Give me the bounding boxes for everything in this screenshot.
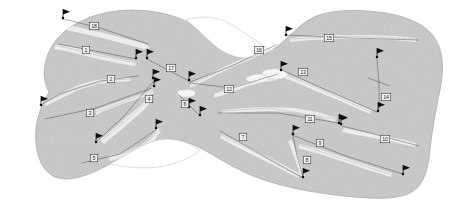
flag-base-dot (377, 110, 380, 113)
flag-base-dot (302, 176, 305, 179)
hole-number-text: 17 (168, 65, 174, 71)
hole-number-text: 15 (326, 35, 332, 41)
golf-course-map: 123456789101112131415161718 (0, 0, 453, 205)
hole-number-label[interactable]: 14 (381, 93, 391, 101)
hole-number-label[interactable]: 3 (86, 109, 94, 117)
hole-number-label[interactable]: 7 (239, 133, 247, 141)
hole-number-text: 18 (91, 23, 97, 29)
hole-number-text: 8 (306, 157, 309, 163)
hole-number-label[interactable]: 12 (224, 85, 234, 93)
flag-base-dot (340, 123, 343, 126)
flag-base-dot (280, 69, 283, 72)
flag-base-dot (62, 17, 65, 20)
hole-number-label[interactable]: 10 (380, 135, 390, 143)
flag-base-dot (153, 85, 156, 88)
hole-number-text: 13 (300, 69, 306, 75)
hole-number-text: 1 (85, 47, 88, 53)
hole-number-text: 2 (110, 76, 113, 82)
flag-base-dot (188, 79, 191, 82)
flag-base-dot (155, 127, 158, 130)
hole-number-label[interactable]: 5 (90, 154, 98, 162)
hole-number-text: 7 (242, 134, 245, 140)
hole-number-text: 9 (319, 140, 322, 146)
flag-base-dot (40, 104, 43, 107)
flag-base-dot (95, 141, 98, 144)
hole-number-label[interactable]: 9 (316, 139, 324, 147)
flag-base-dot (402, 173, 405, 176)
hole-number-label[interactable]: 4 (145, 95, 153, 103)
hole-number-label[interactable]: 16 (254, 46, 264, 54)
flag-base-dot (146, 57, 149, 60)
hole-number-text: 10 (382, 136, 388, 142)
flag-pennant (286, 26, 293, 32)
hole-number-text: 6 (184, 101, 187, 107)
hole-number-label[interactable]: 18 (89, 22, 99, 30)
hole-number-label[interactable]: 2 (107, 75, 115, 83)
hole-number-text: 12 (226, 86, 232, 92)
hole-number-label[interactable]: 11 (305, 115, 315, 123)
hole-number-label[interactable]: 1 (82, 46, 90, 54)
hole-number-text: 5 (93, 155, 96, 161)
flag-base-dot (376, 56, 379, 59)
hole-number-text: 16 (256, 47, 262, 53)
flag-icon (62, 9, 70, 19)
hole-number-label[interactable]: 8 (303, 156, 311, 164)
hole-number-label[interactable]: 6 (181, 100, 189, 108)
hole-number-label[interactable]: 15 (324, 34, 334, 42)
hole-number-label[interactable]: 13 (298, 68, 308, 76)
flag-base-dot (292, 133, 295, 136)
hole-number-text: 4 (148, 96, 151, 102)
flag-base-dot (199, 114, 202, 117)
hole-number-text: 3 (89, 110, 92, 116)
flag-base-dot (135, 57, 138, 60)
flag-base-dot (285, 34, 288, 37)
hole-number-text: 14 (383, 94, 389, 100)
hole-number-text: 11 (307, 116, 312, 122)
flag-pennant (63, 9, 70, 15)
course-layout-svg: 123456789101112131415161718 (0, 0, 453, 205)
hole-number-label[interactable]: 17 (166, 64, 176, 72)
